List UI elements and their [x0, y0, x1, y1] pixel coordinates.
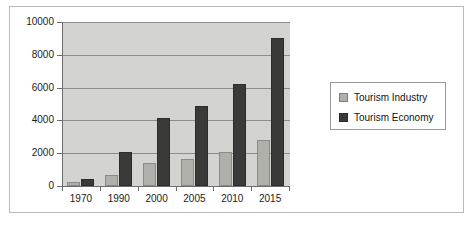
x-tick-mark	[62, 187, 63, 191]
x-tick-label: 1970	[61, 194, 101, 204]
bar-industry-1970	[67, 182, 80, 186]
x-tick-label: 1990	[99, 194, 139, 204]
x-tick-mark	[176, 187, 177, 191]
x-tick-label: 2005	[174, 194, 214, 204]
bar-industry-1990	[105, 175, 118, 186]
chart-figure: 0200040006000800010000 19701990200020052…	[0, 0, 473, 225]
legend-item-tourism-economy: Tourism Economy	[339, 111, 433, 123]
x-tick-mark	[289, 187, 290, 191]
y-tick-label: 8000	[2, 50, 54, 60]
legend-label-industry: Tourism Industry	[354, 92, 427, 103]
x-tick-label: 2010	[212, 194, 252, 204]
y-tick-label: 2000	[2, 148, 54, 158]
x-tick-label: 2015	[250, 194, 290, 204]
bar-industry-2010	[219, 152, 232, 186]
bar-economy-2015	[271, 38, 284, 186]
x-tick-mark	[100, 187, 101, 191]
bar-economy-1990	[119, 152, 132, 186]
x-tick-label: 2000	[137, 194, 177, 204]
x-tick-mark	[251, 187, 252, 191]
bar-economy-2005	[195, 106, 208, 186]
bar-industry-2015	[257, 140, 270, 186]
y-tick-label: 0	[2, 181, 54, 191]
legend-label-economy: Tourism Economy	[354, 112, 433, 123]
x-tick-mark	[138, 187, 139, 191]
bar-economy-1970	[81, 179, 94, 186]
legend-swatch-icon-industry	[339, 93, 348, 102]
chart-legend: Tourism Industry Tourism Economy	[330, 82, 446, 130]
bar-economy-2000	[157, 118, 170, 186]
bar-economy-2010	[233, 84, 246, 186]
bar-series-container	[62, 22, 289, 186]
y-tick-label: 4000	[2, 115, 54, 125]
y-tick-label: 10000	[2, 17, 54, 27]
bar-industry-2000	[143, 163, 156, 186]
x-tick-mark	[213, 187, 214, 191]
legend-item-tourism-industry: Tourism Industry	[339, 91, 427, 103]
bar-industry-2005	[181, 159, 194, 186]
legend-swatch-icon-economy	[339, 113, 348, 122]
y-tick-label: 6000	[2, 83, 54, 93]
